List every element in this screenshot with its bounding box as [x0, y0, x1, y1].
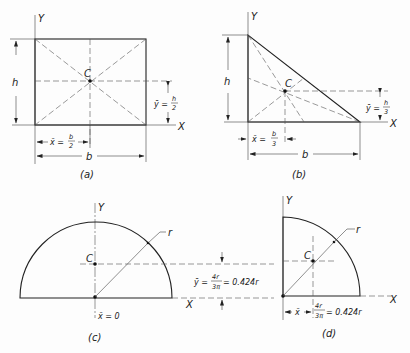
svg-text:x̄ =: x̄ = [251, 135, 266, 144]
svg-text:ȳ =: ȳ = [193, 278, 208, 287]
xbar-label: x̄ [294, 308, 300, 317]
xbar-label: x̄ = 0 [97, 312, 120, 321]
svg-text:ȳ =: ȳ = [365, 104, 380, 113]
svg-text:2: 2 [69, 142, 73, 150]
svg-text:b: b [69, 133, 73, 141]
y-axis-label: Y [286, 195, 293, 206]
caption-b: (b) [292, 169, 306, 180]
centroid-point [283, 89, 287, 93]
svg-text:= 0.424r: = 0.424r [223, 278, 259, 287]
b-label: b [302, 149, 308, 160]
semicircle-shape [20, 222, 172, 298]
svg-text:3π: 3π [315, 312, 323, 320]
caption-a: (a) [80, 169, 94, 180]
centroid-diagram: Y X C h ȳ = h 2 x̄ = b [0, 0, 410, 353]
x-axis-label: X [389, 294, 398, 305]
y-axis-label: Y [251, 11, 258, 22]
svg-text:3π: 3π [212, 283, 220, 291]
b-label: b [86, 151, 92, 162]
svg-text:= 0.424r: = 0.424r [326, 308, 362, 317]
median [248, 35, 304, 122]
caption-d: (d) [322, 328, 336, 339]
svg-text:ȳ =: ȳ = [153, 100, 168, 109]
median [248, 78, 360, 122]
figure-a-rectangle: Y X C h ȳ = h 2 x̄ = b [10, 13, 186, 180]
svg-text:h: h [384, 99, 388, 107]
svg-text:2: 2 [172, 104, 176, 112]
h-label: h [224, 76, 230, 87]
x-axis-label: X [389, 118, 398, 129]
median [248, 78, 304, 122]
figure-d-quarter-circle: Y X C r x̄ 4r 3π = 0.424r (d) [281, 195, 398, 339]
centroid-label: C [84, 68, 91, 79]
y-axis-label: Y [98, 202, 105, 213]
radius-line [95, 243, 148, 297]
leader-line [148, 232, 160, 243]
figure-b-triangle: Y X C h ȳ = h 3 x̄ = b 3 [222, 11, 398, 180]
xbar-formula: x̄ = b 3 [251, 130, 278, 148]
h-label: h [12, 77, 18, 88]
svg-text:h: h [172, 95, 176, 103]
centroid-point [93, 262, 97, 266]
ybar-formula: ȳ = 4r 3π = 0.424r [193, 273, 259, 291]
centroid-label: C [86, 253, 93, 264]
y-axis-label: Y [38, 13, 45, 24]
svg-text:x̄ =: x̄ = [49, 138, 64, 147]
svg-text:b: b [272, 130, 276, 138]
xbar-formula: 4r 3π = 0.424r [314, 302, 362, 320]
ybar-formula: ȳ = h 3 [365, 99, 390, 116]
x-axis-label: X [185, 299, 194, 310]
centroid-point [311, 259, 315, 263]
radius-label: r [168, 227, 173, 238]
centroid-point [88, 79, 92, 83]
radius-label: r [356, 224, 361, 235]
centroid-label: C [285, 78, 292, 89]
svg-text:3: 3 [384, 108, 388, 116]
svg-text:3: 3 [272, 140, 276, 148]
caption-c: (c) [88, 332, 101, 343]
svg-text:4r: 4r [212, 273, 220, 281]
xbar-formula: x̄ = b 2 [49, 133, 75, 150]
centroid-label: C [304, 250, 311, 261]
svg-text:4r: 4r [315, 302, 323, 310]
x-axis-label: X [177, 121, 186, 132]
figure-c-semicircle: Y X C r x̄ = 0 ȳ = 4r 3π = 0.424r (c) [20, 202, 274, 343]
ybar-formula: ȳ = h 2 [153, 95, 178, 112]
leader-line [334, 229, 347, 242]
